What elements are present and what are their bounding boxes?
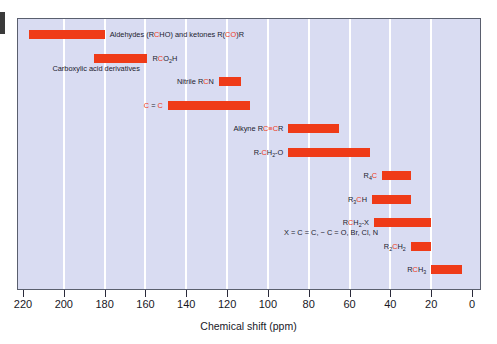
tick-140ppm	[186, 290, 187, 297]
bar-carboxylic-acid	[94, 54, 147, 63]
x-axis-title: Chemical shift (ppm)	[0, 320, 497, 332]
tick-label-80ppm: 80	[303, 298, 315, 310]
bar-methylene	[411, 242, 431, 251]
bar-row-methylene-x: RCH2-XX = C = C, − C = O, Br, Cl, N	[18, 214, 480, 232]
tick-120ppm	[227, 290, 228, 297]
page-edge-artifact	[0, 12, 5, 34]
bar-label-nitrile: Nitrile RCN	[177, 77, 214, 86]
x-axis: 220200180160140120100806040200	[17, 290, 481, 302]
bar-label-alkyne: Alkyne RC≡CR	[233, 124, 283, 133]
bar-label-aldehydes-ketones: Aldehydes (RCHO) and ketones R(CO)R	[110, 30, 244, 39]
tick-220ppm	[23, 290, 24, 297]
bar-methine	[372, 195, 411, 204]
bar-quaternary-carbon	[382, 171, 411, 180]
tick-label-180ppm: 180	[95, 298, 113, 310]
tick-label-20ppm: 20	[425, 298, 437, 310]
tick-180ppm	[105, 290, 106, 297]
tick-0ppm	[472, 290, 473, 297]
bar-row-methyl: RCH3	[18, 261, 480, 279]
bar-label-quaternary-carbon: R4C	[364, 171, 378, 181]
bar-label-methylene-x: RCH2-X	[343, 218, 369, 228]
bar-row-nitrile: Nitrile RCN	[18, 73, 480, 91]
tick-label-160ppm: 160	[136, 298, 154, 310]
tick-20ppm	[431, 290, 432, 297]
bar-label-methyl: RCH3	[407, 265, 426, 275]
bar-sublabel-carboxylic-acid: Carboxylic acid derivatives	[52, 64, 140, 73]
tick-160ppm	[145, 290, 146, 297]
bar-alkene	[168, 101, 250, 110]
tick-60ppm	[350, 290, 351, 297]
chemical-shift-chart: Aldehydes (RCHO) and ketones R(CO)RRCO2H…	[0, 0, 497, 344]
bar-row-methine: R3CH	[18, 191, 480, 209]
bar-nitrile	[219, 77, 241, 86]
bar-row-aldehydes-ketones: Aldehydes (RCHO) and ketones R(CO)R	[18, 26, 480, 44]
tick-label-100ppm: 100	[259, 298, 277, 310]
tick-100ppm	[268, 290, 269, 297]
bar-row-alkene: C = C	[18, 97, 480, 115]
bar-row-methylene: R2CH2	[18, 238, 480, 256]
tick-label-40ppm: 40	[384, 298, 396, 310]
bar-methyl	[431, 265, 462, 274]
bar-row-alkyne: Alkyne RC≡CR	[18, 120, 480, 138]
tick-label-60ppm: 60	[343, 298, 355, 310]
bar-label-alkoxy: R-CH2-O	[254, 148, 284, 158]
tick-80ppm	[309, 290, 310, 297]
tick-label-140ppm: 140	[177, 298, 195, 310]
bar-label-alkene: C = C	[144, 101, 163, 110]
tick-40ppm	[390, 290, 391, 297]
bar-methylene-x	[374, 218, 431, 227]
bar-aldehydes-ketones	[29, 30, 105, 39]
bar-row-quaternary-carbon: R4C	[18, 167, 480, 185]
tick-label-220ppm: 220	[14, 298, 32, 310]
bar-label-carboxylic-acid: RCO2H	[152, 54, 177, 64]
bar-sublabel-methylene-x: X = C = C, − C = O, Br, Cl, N	[284, 228, 378, 237]
bar-row-carboxylic-acid: RCO2HCarboxylic acid derivatives	[18, 50, 480, 68]
bar-alkoxy	[288, 148, 370, 157]
tick-label-0ppm: 0	[469, 298, 475, 310]
bar-label-methylene: R2CH2	[384, 242, 406, 252]
tick-label-200ppm: 200	[55, 298, 73, 310]
plot-area: Aldehydes (RCHO) and ketones R(CO)RRCO2H…	[17, 18, 481, 290]
bar-row-alkoxy: R-CH2-O	[18, 144, 480, 162]
bar-label-methine: R3CH	[348, 195, 367, 205]
tick-200ppm	[64, 290, 65, 297]
bar-alkyne	[288, 124, 339, 133]
tick-label-120ppm: 120	[218, 298, 236, 310]
